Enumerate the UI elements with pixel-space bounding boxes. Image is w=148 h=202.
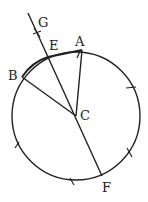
line-g-f bbox=[28, 13, 102, 176]
arc-b-e-a bbox=[22, 50, 82, 77]
geometry-diagram: G E A B C F bbox=[0, 0, 148, 202]
label-e: E bbox=[49, 38, 59, 53]
label-c: C bbox=[80, 108, 90, 123]
label-f: F bbox=[102, 180, 111, 195]
segment-c-a bbox=[76, 50, 82, 116]
tick-mark bbox=[126, 87, 136, 88]
segment-c-b bbox=[22, 77, 76, 116]
label-b: B bbox=[8, 68, 18, 83]
label-a: A bbox=[74, 34, 85, 49]
tick-mark bbox=[70, 178, 74, 185]
label-g: G bbox=[38, 15, 48, 30]
